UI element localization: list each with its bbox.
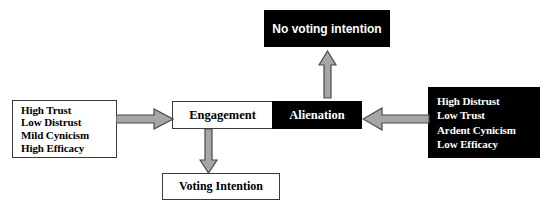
arrow-engagement-to-voting-intention-icon [199, 129, 219, 174]
right-antecedents-line-1: High Distrust [437, 94, 539, 109]
diagram-canvas: High Trust Low Distrust Mild Cynicism Hi… [0, 0, 547, 203]
engagement-label: Engagement [189, 108, 256, 123]
right-antecedents-line-2: Low Trust [437, 108, 539, 123]
alienation-label: Alienation [289, 108, 345, 123]
left-antecedents-line-4: High Efficacy [21, 142, 116, 155]
engagement-box: Engagement [172, 101, 273, 129]
left-antecedents-line-2: Low Distrust [21, 116, 116, 129]
no-voting-intention-box: No voting intention [264, 10, 390, 47]
no-voting-intention-label: No voting intention [272, 22, 381, 36]
right-antecedents-line-4: Low Efficacy [437, 137, 539, 152]
arrow-right-antecedents-to-alienation-icon [362, 107, 430, 131]
left-antecedents-box: High Trust Low Distrust Mild Cynicism Hi… [12, 100, 117, 158]
left-antecedents-line-1: High Trust [21, 104, 116, 117]
voting-intention-box: Voting Intention [162, 173, 280, 200]
right-antecedents-line-3: Ardent Cynicism [437, 123, 539, 138]
arrow-alienation-to-no-voting-intention-icon [318, 50, 338, 99]
left-antecedents-line-3: Mild Cynicism [21, 129, 116, 142]
alienation-box: Alienation [272, 101, 362, 129]
arrow-left-antecedents-to-engagement-icon [116, 108, 174, 130]
right-antecedents-box: High Distrust Low Trust Ardent Cynicism … [428, 87, 540, 158]
voting-intention-label: Voting Intention [179, 179, 263, 194]
